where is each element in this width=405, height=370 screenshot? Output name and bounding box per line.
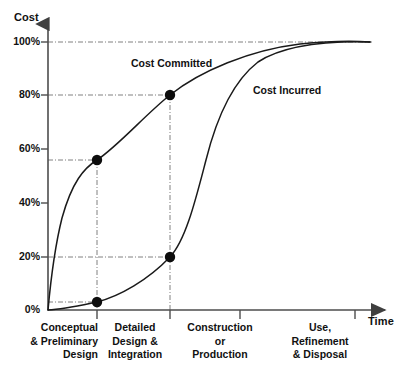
x-category-line: & Preliminary — [24, 335, 98, 349]
series-label-cost-committed: Cost Committed — [131, 57, 212, 69]
series-cost-committed-line — [48, 41, 370, 310]
x-category-line: Construction — [172, 321, 268, 335]
y-axis-title: Cost — [14, 11, 39, 24]
y-tick-label-40: 40% — [2, 196, 40, 208]
data-point-markers — [92, 90, 175, 307]
x-axis-title: Time — [368, 315, 394, 328]
x-axis-ticks — [97, 310, 355, 319]
x-category-line: or — [172, 335, 268, 349]
x-category-construction-or-production: Construction or Production — [172, 321, 268, 362]
x-category-line: Integration — [104, 348, 166, 362]
marker-committed-56 — [92, 155, 102, 165]
x-category-line: Detailed — [104, 321, 166, 335]
x-category-conceptual-preliminary-design: Conceptual & Preliminary Design — [24, 321, 98, 362]
marker-committed-80 — [165, 90, 175, 100]
chart-canvas — [0, 0, 405, 370]
x-category-line: Use, — [278, 321, 362, 335]
marker-incurred-20 — [165, 252, 175, 262]
y-tick-label-0: 0% — [2, 303, 40, 315]
x-category-use-refinement-disposal: Use, Refinement & Disposal — [278, 321, 362, 362]
y-tick-label-60: 60% — [2, 142, 40, 154]
x-category-line: Conceptual — [24, 321, 98, 335]
y-tick-label-20: 20% — [2, 250, 40, 262]
x-category-line: & Disposal — [278, 348, 362, 362]
cost-commitment-chart: Cost Time 100% 80% 60% 40% 20% 0% Concep… — [0, 0, 405, 370]
series-label-cost-incurred: Cost Incurred — [253, 84, 321, 96]
reference-lines — [48, 42, 372, 310]
y-tick-label-80: 80% — [2, 88, 40, 100]
x-category-detailed-design-integration: Detailed Design & Integration — [104, 321, 166, 362]
x-category-line: Refinement — [278, 335, 362, 349]
series-cost-incurred-line — [48, 42, 370, 310]
x-category-line: Production — [172, 348, 268, 362]
x-category-line: Design — [24, 348, 98, 362]
y-axis-ticks — [41, 42, 48, 257]
marker-incurred-3 — [92, 297, 102, 307]
x-category-line: Design & — [104, 335, 166, 349]
y-tick-label-100: 100% — [2, 35, 40, 47]
